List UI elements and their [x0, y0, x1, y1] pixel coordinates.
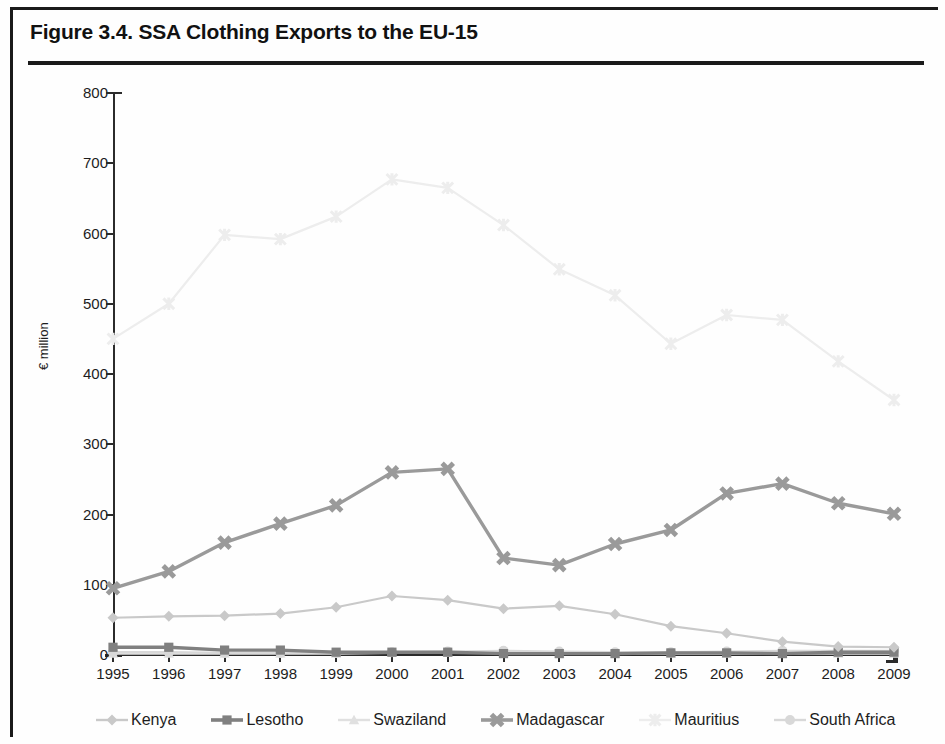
- x-tick-label: 2008: [808, 665, 868, 682]
- chart-series-layer: [0, 0, 945, 744]
- y-axis-top-cap: [113, 92, 122, 94]
- x-tick-label: 2009: [864, 665, 924, 682]
- y-tick-label: 800: [68, 84, 108, 101]
- data-point-diamond: [275, 608, 286, 619]
- x-tick-label: 2003: [529, 665, 589, 682]
- data-point-diamond: [498, 603, 509, 614]
- data-point-star: [331, 210, 342, 222]
- legend-marker-icon: [337, 712, 371, 728]
- series-line: [113, 651, 894, 653]
- data-point-star: [498, 219, 509, 231]
- data-point-cross: [331, 500, 342, 511]
- data-point-cross: [833, 498, 844, 509]
- data-point-cross: [498, 552, 509, 563]
- data-point-star: [275, 233, 286, 245]
- data-point-cross: [163, 566, 174, 577]
- chart-plot-area: 8007006005004003002001000 19951996199719…: [0, 0, 945, 744]
- y-axis-title: € million: [36, 322, 51, 370]
- legend-item-label: Swaziland: [373, 711, 446, 729]
- x-tick-mark: [224, 656, 226, 662]
- data-point-diamond: [107, 715, 118, 726]
- series-kenya: [108, 590, 900, 652]
- data-point-square: [164, 643, 173, 652]
- x-tick-mark: [112, 656, 114, 662]
- legend-item-mauritius[interactable]: Mauritius: [638, 711, 739, 729]
- x-tick-mark: [614, 656, 616, 662]
- data-point-star: [889, 394, 900, 406]
- data-point-cross: [888, 508, 899, 519]
- data-point-diamond: [442, 595, 453, 606]
- x-axis-end-cap: [886, 650, 898, 663]
- y-axis-line: [113, 92, 115, 656]
- legend-marker-icon: [95, 712, 129, 728]
- y-tick-label: 600: [68, 225, 108, 242]
- legend-item-label: Madagascar: [516, 711, 604, 729]
- legend-item-label: Lesotho: [246, 711, 303, 729]
- y-tick-mark: [106, 233, 113, 235]
- y-tick-label: 0: [68, 646, 108, 663]
- data-point-star: [442, 182, 453, 194]
- data-point-cross: [777, 478, 788, 489]
- y-tick-label: 500: [68, 295, 108, 312]
- data-point-cross: [609, 538, 620, 549]
- x-tick-mark: [837, 656, 839, 662]
- x-tick-mark: [335, 656, 337, 662]
- x-tick-mark: [558, 656, 560, 662]
- y-tick-mark: [106, 584, 113, 586]
- data-point-cross: [442, 463, 453, 474]
- x-tick-mark: [168, 656, 170, 662]
- y-tick-label: 400: [68, 365, 108, 382]
- y-tick-label: 300: [68, 435, 108, 452]
- legend-item-south-africa[interactable]: South Africa: [773, 711, 895, 729]
- series-line: [113, 647, 894, 653]
- data-point-star: [610, 289, 621, 301]
- x-tick-label: 1995: [83, 665, 143, 682]
- x-tick-mark: [781, 656, 783, 662]
- data-point-cross: [721, 488, 732, 499]
- data-point-star: [721, 309, 732, 321]
- series-line: [113, 596, 894, 647]
- data-point-cross: [554, 559, 565, 570]
- y-tick-mark: [106, 373, 113, 375]
- chart-legend: KenyaLesothoSwazilandMadagascarMauritius…: [95, 707, 925, 733]
- legend-item-lesotho[interactable]: Lesotho: [210, 711, 303, 729]
- data-point-cross: [386, 467, 397, 478]
- data-point-star: [163, 298, 174, 310]
- y-tick-mark: [106, 443, 113, 445]
- y-tick-mark: [106, 92, 113, 94]
- y-tick-label: 100: [68, 576, 108, 593]
- legend-item-label: Mauritius: [674, 711, 739, 729]
- y-tick-mark: [106, 162, 113, 164]
- data-point-diamond: [610, 609, 621, 620]
- x-tick-label: 1997: [195, 665, 255, 682]
- data-point-cross: [219, 537, 230, 548]
- data-point-star: [833, 355, 844, 367]
- y-tick-label: 700: [68, 154, 108, 171]
- legend-marker-icon: [638, 712, 672, 728]
- data-point-diamond: [665, 621, 676, 632]
- x-tick-label: 1998: [250, 665, 310, 682]
- data-point-diamond: [331, 602, 342, 613]
- figure-root: Figure 3.4. SSA Clothing Exports to the …: [0, 0, 945, 744]
- data-point-diamond: [777, 636, 788, 647]
- data-point-circle: [785, 715, 795, 725]
- series-mauritius: [108, 173, 900, 406]
- data-point-star: [219, 229, 230, 241]
- legend-marker-icon: [210, 712, 244, 728]
- legend-item-kenya[interactable]: Kenya: [95, 711, 176, 729]
- series-line: [113, 179, 894, 400]
- legend-item-swaziland[interactable]: Swaziland: [337, 711, 446, 729]
- x-tick-label: 2005: [641, 665, 701, 682]
- data-point-diamond: [833, 641, 844, 652]
- data-point-square: [223, 715, 232, 724]
- legend-item-madagascar[interactable]: Madagascar: [480, 711, 604, 729]
- x-tick-label: 2002: [474, 665, 534, 682]
- legend-item-label: South Africa: [809, 711, 895, 729]
- x-tick-mark: [670, 656, 672, 662]
- series-madagascar: [107, 463, 899, 594]
- x-tick-mark: [447, 656, 449, 662]
- y-tick-mark: [106, 514, 113, 516]
- y-tick-mark: [106, 303, 113, 305]
- data-point-star: [665, 338, 676, 350]
- x-tick-label: 2007: [752, 665, 812, 682]
